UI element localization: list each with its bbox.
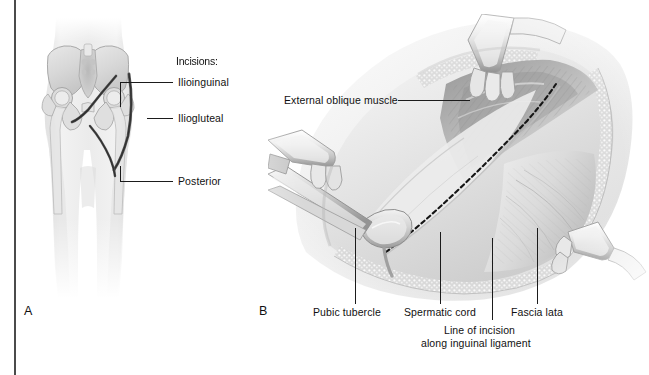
panel-a-artwork <box>18 18 168 298</box>
label-pubic-tubercle: Pubic tubercle <box>313 306 381 318</box>
panel-letter-b: B <box>259 304 267 318</box>
label-external-oblique-muscle: External oblique muscle <box>284 94 398 106</box>
figure-root: Incisions: Ilioinguinal Iliogluteal Post… <box>0 0 649 375</box>
label-iliogluteal: Iliogluteal <box>178 112 223 124</box>
label-along-inguinal-ligament: along inguinal ligament <box>421 337 531 349</box>
incisions-legend-title: Incisions: <box>176 55 218 67</box>
label-posterior: Posterior <box>178 175 221 187</box>
panel-b-artwork <box>268 14 649 304</box>
label-fascia-lata: Fascia lata <box>511 306 563 318</box>
panel-divider <box>14 0 16 375</box>
panel-letter-a: A <box>24 304 32 318</box>
label-spermatic-cord: Spermatic cord <box>404 306 476 318</box>
label-ilioinguinal: Ilioinguinal <box>178 76 229 88</box>
label-line-of-incision: Line of incision <box>444 324 515 336</box>
